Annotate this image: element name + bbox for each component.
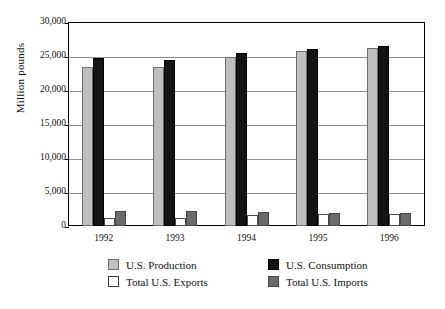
bar-group [153,22,197,226]
bar-production [225,57,236,226]
bar-imports [258,212,269,226]
y-axis-tickmark [65,227,69,228]
chart-legend: U.S. ProductionU.S. ConsumptionTotal U.S… [108,256,428,290]
y-axis-title: Million pounds [14,18,26,138]
x-axis-tick-label: 1996 [380,232,399,244]
bar-consumption [378,46,389,226]
legend-swatch-production [108,259,119,270]
bar-production [153,67,164,226]
y-axis-tick-label: 25,000 [40,51,66,61]
y-axis-tick-labels: 05,00010,00015,00020,00025,00030,000 [26,22,66,226]
bar-imports [186,211,197,226]
bar-exports [247,215,258,226]
bar-consumption [93,58,104,226]
bar-consumption [164,60,175,226]
x-axis-tick-label: 1993 [166,232,185,244]
y-axis-tick-label: 0 [61,221,66,231]
bar-group [225,22,269,226]
legend-swatch-exports [108,276,119,287]
bar-group [82,22,126,226]
legend-item: U.S. Production [108,256,268,273]
legend-item: Total U.S. Exports [108,273,268,290]
bar-production [82,67,93,226]
bar-exports [175,218,186,226]
legend-label: Total U.S. Imports [286,276,368,288]
legend-swatch-imports [268,276,279,287]
bar-exports [389,214,400,226]
x-axis-tick-label: 1992 [94,232,113,244]
bar-exports [104,218,115,227]
y-axis-tick-label: 20,000 [40,85,66,95]
bar-imports [115,211,126,226]
bar-group [367,22,411,226]
bar-imports [400,213,411,226]
y-axis-tick-label: 10,000 [40,153,66,163]
bars-layer [68,22,425,226]
bar-production [367,48,378,226]
x-axis-tick-label: 1995 [308,232,327,244]
legend-label: U.S. Production [126,259,197,271]
bar-consumption [307,49,318,226]
legend-swatch-consumption [268,259,279,270]
bar-exports [318,214,329,226]
legend-label: U.S. Consumption [286,259,368,271]
x-axis-tick-label: 1994 [237,232,256,244]
bar-consumption [236,53,247,226]
bar-group [296,22,340,226]
y-axis-tick-label: 30,000 [40,17,66,27]
bar-chart: Million pounds 05,00010,00015,00020,0002… [0,0,445,309]
bar-imports [329,213,340,226]
y-axis-tick-label: 5,000 [45,187,66,197]
legend-item: Total U.S. Imports [268,273,428,290]
y-axis-tick-label: 15,000 [40,119,66,129]
x-axis-tick-labels: 19921993199419951996 [68,232,425,248]
bar-production [296,51,307,226]
legend-item: U.S. Consumption [268,256,428,273]
legend-label: Total U.S. Exports [126,276,208,288]
